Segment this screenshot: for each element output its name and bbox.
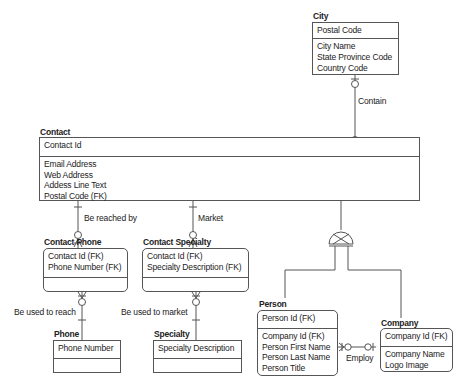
attribute: Company Id (FK)	[262, 331, 333, 342]
attribute: Addess Line Text	[44, 180, 415, 191]
entity-person-attributes: Company Id (FK) Person First Name Person…	[258, 329, 337, 375]
entity-title-contact: Contact	[40, 127, 70, 137]
attribute: Postal Code	[317, 25, 394, 36]
entity-company-attributes: Company Name Logo Image	[381, 347, 452, 372]
entity-contact-specialty-key: Contact Id (FK) Specialty Description (F…	[143, 249, 248, 278]
entity-contact-specialty[interactable]: Contact Id (FK) Specialty Description (F…	[142, 248, 249, 292]
entity-contact-phone-key: Contact Id (FK) Phone Number (FK)	[44, 249, 127, 278]
relationship-label-market: Market	[198, 213, 223, 223]
attribute: Company Id (FK)	[385, 331, 448, 342]
entity-city-attributes: City Name State Province Code Country Co…	[313, 39, 398, 76]
attribute: Postal Code (FK)	[44, 191, 415, 202]
attribute: Specialty Description (FK)	[147, 262, 244, 273]
entity-person[interactable]: Person Id (FK) Company Id (FK) Person Fi…	[257, 310, 338, 376]
entity-title-phone: Phone	[54, 329, 79, 339]
entity-contact-phone[interactable]: Contact Id (FK) Phone Number (FK)	[43, 248, 128, 292]
entity-person-key: Person Id (FK)	[258, 311, 337, 329]
entity-phone-key: Phone Number	[54, 341, 120, 359]
attribute: Person Title	[262, 363, 333, 374]
entity-title-specialty: Specialty	[154, 329, 190, 339]
attribute: Contact Id (FK)	[48, 251, 123, 262]
relationship-label-be-used-to-market: Be used to market	[121, 307, 187, 317]
attribute: Phone Number (FK)	[48, 262, 123, 273]
relationship-label-be-reached-by: Be reached by	[84, 213, 137, 223]
attribute: Logo Image	[385, 360, 448, 371]
entity-company[interactable]: Company Id (FK) Company Name Logo Image	[380, 328, 453, 372]
entity-contact-attributes: Email Address Web Address Addess Line Te…	[40, 157, 419, 203]
relationship-label-employ: Employ	[346, 353, 373, 363]
attribute: Company Name	[385, 349, 448, 360]
relationship-label-contain: Contain	[358, 96, 386, 106]
entity-specialty-key: Specialty Description	[154, 341, 241, 359]
entity-title-person: Person	[259, 299, 287, 309]
entity-city-key: Postal Code	[313, 23, 398, 39]
attribute: Contact Id	[44, 140, 415, 151]
entity-contact-key: Contact Id	[40, 138, 419, 157]
attribute: Web Address	[44, 170, 415, 181]
attribute: Person Last Name	[262, 352, 333, 363]
attribute: Email Address	[44, 159, 415, 170]
entity-phone[interactable]: Phone Number	[53, 340, 121, 373]
entity-company-key: Company Id (FK)	[381, 329, 452, 347]
attribute: State Province Code	[317, 52, 394, 63]
entity-contact[interactable]: Contact Id Email Address Web Address Add…	[39, 137, 420, 201]
attribute: City Name	[317, 41, 394, 52]
entity-title-company: Company	[381, 318, 418, 328]
entity-title-contact-phone: Contact Phone	[44, 237, 101, 247]
attribute: Contact Id (FK)	[147, 251, 244, 262]
attribute: Person Id (FK)	[262, 313, 333, 324]
attribute: Phone Number	[58, 343, 116, 354]
entity-title-city: City	[313, 11, 328, 21]
attribute: Person First Name	[262, 342, 333, 353]
attribute: Country Code	[317, 63, 394, 74]
entity-specialty[interactable]: Specialty Description	[153, 340, 242, 373]
attribute: Specialty Description	[158, 343, 237, 354]
relationship-label-be-used-to-reach: Be used to reach	[14, 307, 76, 317]
entity-title-contact-specialty: Contact Specialty	[143, 237, 211, 247]
entity-city[interactable]: Postal Code City Name State Province Cod…	[312, 22, 399, 75]
